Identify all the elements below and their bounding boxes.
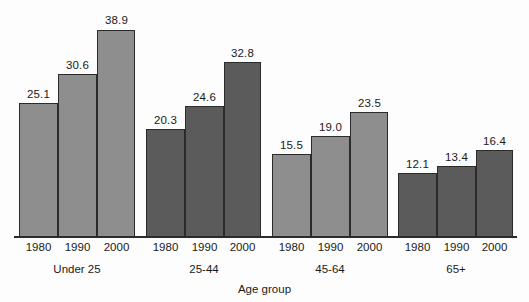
x-axis-line bbox=[14, 236, 517, 238]
tick-label-45to64-2000: 2000 bbox=[345, 241, 394, 253]
bar-value-45to64-2000: 23.5 bbox=[345, 97, 394, 109]
bar-value-25to44-1980: 20.3 bbox=[141, 114, 190, 126]
bar-value-under25-2000: 38.9 bbox=[92, 14, 141, 26]
x-axis-title: Age group bbox=[0, 283, 529, 295]
bar-value-under25-1980: 25.1 bbox=[14, 88, 63, 100]
bar-45to64-1990 bbox=[311, 136, 350, 237]
bar-under25-1980 bbox=[19, 103, 58, 237]
bar-25to44-2000 bbox=[224, 62, 261, 237]
group-label-45to64: 45-64 bbox=[270, 263, 390, 275]
bar-65plus-1980 bbox=[398, 173, 437, 237]
bar-value-under25-1990: 30.6 bbox=[53, 59, 102, 71]
group-label-65plus: 65+ bbox=[396, 263, 516, 275]
tick-label-under25-2000: 2000 bbox=[92, 241, 141, 253]
bar-value-45to64-1990: 19.0 bbox=[306, 121, 355, 133]
bar-chart: 25.1 30.6 38.9 20.3 24.6 32.8 15.5 19.0 … bbox=[0, 0, 529, 302]
bar-value-25to44-1990: 24.6 bbox=[180, 91, 229, 103]
tick-label-65plus-2000: 2000 bbox=[470, 241, 519, 253]
bar-value-45to64-1980: 15.5 bbox=[267, 139, 316, 151]
tick-label-25to44-2000: 2000 bbox=[218, 241, 267, 253]
bar-value-25to44-2000: 32.8 bbox=[218, 47, 267, 59]
bar-45to64-2000 bbox=[350, 112, 388, 237]
bar-65plus-1990 bbox=[437, 166, 476, 237]
bar-value-65plus-2000: 16.4 bbox=[470, 135, 519, 147]
bar-45to64-1980 bbox=[272, 154, 311, 237]
bar-25to44-1990 bbox=[185, 106, 224, 237]
bar-under25-1990 bbox=[58, 74, 97, 237]
bar-25to44-1980 bbox=[146, 129, 185, 237]
bar-under25-2000 bbox=[97, 30, 135, 237]
group-label-under25: Under 25 bbox=[17, 263, 137, 275]
group-label-25to44: 25-44 bbox=[144, 263, 264, 275]
bar-value-65plus-1990: 13.4 bbox=[432, 151, 481, 163]
plot-area: 25.1 30.6 38.9 20.3 24.6 32.8 15.5 19.0 … bbox=[0, 0, 529, 240]
bar-65plus-2000 bbox=[476, 150, 513, 237]
